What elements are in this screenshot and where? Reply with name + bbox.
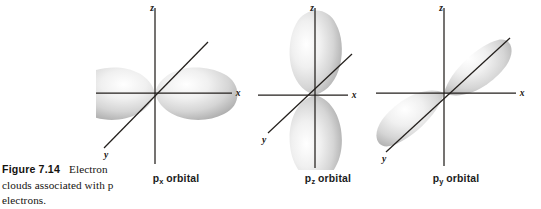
px-lobe-right [155, 68, 238, 120]
px-axis-label-x: x [235, 88, 241, 98]
py-axes [376, 8, 516, 166]
px-orbital-svg: z x y [96, 0, 256, 170]
py-orbital-caption: pyorbital [376, 173, 536, 184]
pz-label-subscript: z [312, 177, 316, 186]
pz-axis-label-z: z [309, 3, 314, 13]
orbital-diagram-py: z x y pyorbital [376, 0, 536, 196]
pz-axis-label-x: x [351, 90, 357, 100]
px-axis-label-z: z [149, 3, 154, 13]
px-lobe-left [96, 68, 155, 120]
py-label-word: orbital [446, 173, 479, 184]
py-axis-label-y: y [381, 154, 387, 164]
py-label-subscript: y [439, 177, 443, 186]
px-label-word: orbital [166, 173, 199, 184]
pz-axis-label-y: y [261, 135, 267, 145]
figure-caption-label: Figure [2, 163, 36, 175]
pz-lobe-bottom [290, 95, 342, 170]
figure-container: Figure7.14Electron clouds associated wit… [0, 0, 541, 209]
py-lobe-lower-left [376, 91, 444, 147]
py-axis-label-z: z [438, 3, 443, 13]
pz-electron-cloud-lobes [290, 11, 342, 171]
py-orbital-svg: z x y [376, 0, 536, 170]
orbital-diagram-px: z x y pxorbital [96, 0, 256, 196]
pz-lobe-top [290, 11, 342, 96]
pz-label-symbol: p [305, 173, 312, 184]
figure-caption-number: 7.14 [39, 163, 60, 175]
px-electron-cloud-lobes [96, 68, 238, 120]
pz-label-word: orbital [318, 173, 351, 184]
py-axis-label-x: x [519, 88, 525, 98]
py-axis-y-line [386, 38, 510, 152]
px-label-subscript: x [159, 177, 163, 186]
px-axis-label-y: y [103, 150, 109, 160]
px-orbital-caption: pxorbital [96, 173, 256, 184]
